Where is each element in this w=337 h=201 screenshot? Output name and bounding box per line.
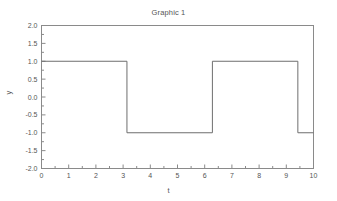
y-tick-label: -2.0 [25,165,37,172]
x-tick-label: 4 [148,172,152,179]
y-tick-label: 1.0 [28,58,38,65]
y-tick-label: -0.5 [25,111,37,118]
x-tick-label: 9 [284,172,288,179]
y-tick-label: -1.0 [25,129,37,136]
x-tick-label: 1 [67,172,71,179]
y-tick-label: 0.5 [28,76,38,83]
x-tick-label: 8 [257,172,261,179]
chart-figure: Graphic 1 012345678910-2.0-1.5-1.0-0.50.… [0,0,337,201]
x-tick-label: 6 [203,172,207,179]
x-tick-label: 0 [40,172,44,179]
x-tick-label: 7 [230,172,234,179]
x-tick-label: 10 [310,172,318,179]
y-tick-label: 2.0 [28,22,38,29]
y-tick-label: 0.0 [28,94,38,101]
y-axis-label: y [4,91,13,95]
x-tick-label: 5 [176,172,180,179]
x-axis-label: t [0,186,337,195]
plot-canvas: 012345678910-2.0-1.5-1.0-0.50.00.51.01.5… [0,0,337,201]
x-tick-label: 3 [121,172,125,179]
y-tick-label: 1.5 [28,40,38,47]
data-series-line [42,61,314,133]
y-tick-label: -1.5 [25,147,37,154]
x-tick-label: 2 [94,172,98,179]
plot-frame [42,26,314,169]
